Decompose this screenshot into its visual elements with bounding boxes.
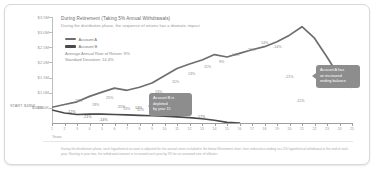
x-axis-tick xyxy=(252,123,253,126)
x-axis-tick xyxy=(277,123,278,126)
x-axis-label: 5 xyxy=(98,127,106,131)
data-label: 14% xyxy=(135,106,142,110)
data-label: 14% xyxy=(261,41,268,45)
x-axis-tick xyxy=(240,123,241,126)
x-axis-tick xyxy=(315,123,316,126)
x-axis-label: 22 xyxy=(311,127,319,131)
data-label: -14% xyxy=(99,118,108,122)
x-axis-tick xyxy=(327,123,328,126)
x-axis-tick xyxy=(202,123,203,126)
x-axis-label: 4 xyxy=(86,127,94,131)
footnote-text: During the distribution phase, each hypo… xyxy=(61,147,349,157)
x-axis-label: 1 xyxy=(48,127,56,131)
x-axis-label: 24 xyxy=(336,127,344,131)
x-axis-tick xyxy=(90,123,91,126)
x-axis-tick xyxy=(340,123,341,126)
x-axis-label: 19 xyxy=(273,127,281,131)
y-axis-label: $2.0M xyxy=(21,60,49,65)
x-axis-label: 17 xyxy=(248,127,256,131)
x-axis-tick xyxy=(352,123,353,126)
x-axis-label: 2 xyxy=(61,127,69,131)
x-axis-tick xyxy=(77,123,78,126)
data-label: -21% xyxy=(285,75,294,79)
x-axis-label: 13 xyxy=(198,127,206,131)
line-account-a xyxy=(52,27,352,108)
data-label: 19% xyxy=(92,103,99,107)
x-axis-tick xyxy=(152,123,153,126)
x-axis-tick xyxy=(52,123,53,126)
plot-area xyxy=(52,17,352,123)
x-axis-tick xyxy=(65,123,66,126)
x-axis-label: 8 xyxy=(136,127,144,131)
x-axis-label: 21 xyxy=(298,127,306,131)
y-axis-label: $3.0M xyxy=(21,30,49,35)
data-label: -12% xyxy=(296,99,305,103)
x-axis-title: Years xyxy=(52,134,62,139)
x-axis-label: 10 xyxy=(161,127,169,131)
annotation-tail-b xyxy=(148,103,152,109)
x-axis-tick xyxy=(227,123,228,126)
x-axis-label: 3 xyxy=(73,127,81,131)
y-axis-label: $2.5M xyxy=(21,45,49,50)
x-axis-label: 6 xyxy=(111,127,119,131)
data-label: -12% xyxy=(67,110,76,114)
annotation-line: by year 15 xyxy=(153,107,188,113)
x-axis-tick xyxy=(140,123,141,126)
data-label: -21% xyxy=(83,115,92,119)
data-label: 21% xyxy=(118,105,125,109)
annotation-tail-a xyxy=(312,73,316,79)
y-axis-label: $1.0M xyxy=(21,90,49,95)
data-label: 21% xyxy=(248,48,255,52)
x-axis-tick xyxy=(302,123,303,126)
x-axis-tick xyxy=(127,123,128,126)
x-axis-label: 16 xyxy=(236,127,244,131)
data-label: 17% xyxy=(198,115,205,119)
data-label: -14% xyxy=(273,45,282,49)
x-axis-label: 20 xyxy=(286,127,294,131)
data-label: 11% xyxy=(204,65,211,69)
line-account-b xyxy=(52,110,240,123)
data-label: 14% xyxy=(232,53,239,57)
x-axis-tick xyxy=(265,123,266,126)
start-value-label: $500K xyxy=(32,105,43,110)
x-axis-label: 11 xyxy=(173,127,181,131)
footnote-divider xyxy=(43,141,353,142)
x-axis-tick xyxy=(190,123,191,126)
data-label: 9% xyxy=(219,60,224,64)
data-label: 13% xyxy=(188,72,195,76)
data-label: 24% xyxy=(75,99,82,103)
x-axis-label: 12 xyxy=(186,127,194,131)
x-axis-label: 9 xyxy=(148,127,156,131)
y-axis-label: $1.5M xyxy=(21,75,49,80)
x-axis-tick xyxy=(115,123,116,126)
annotation-account-a-ending: Account A hasan increasedending balance xyxy=(316,65,360,88)
data-label: 11% xyxy=(172,80,179,84)
chart-screenshot: During Retirement (Taking 5% Annual With… xyxy=(0,0,374,169)
x-axis-label: 14 xyxy=(211,127,219,131)
x-axis-label: 23 xyxy=(323,127,331,131)
annotation-account-b-depleted: Account B is depletedby year 15 xyxy=(149,93,192,116)
x-axis-tick xyxy=(290,123,291,126)
x-axis-label: 7 xyxy=(123,127,131,131)
y-axis-label: $3.5M xyxy=(21,15,49,20)
x-axis-label: 15 xyxy=(223,127,231,131)
x-axis-tick xyxy=(215,123,216,126)
annotation-line: Account B is depleted xyxy=(153,96,188,107)
x-axis-label: 18 xyxy=(261,127,269,131)
x-axis-label: 25 xyxy=(348,127,356,131)
x-axis-tick xyxy=(177,123,178,126)
data-label: 25% xyxy=(106,96,113,100)
annotation-line: ending balance xyxy=(320,79,356,85)
chart-card: During Retirement (Taking 5% Annual With… xyxy=(4,4,370,165)
x-axis-tick xyxy=(102,123,103,126)
x-axis-tick xyxy=(165,123,166,126)
